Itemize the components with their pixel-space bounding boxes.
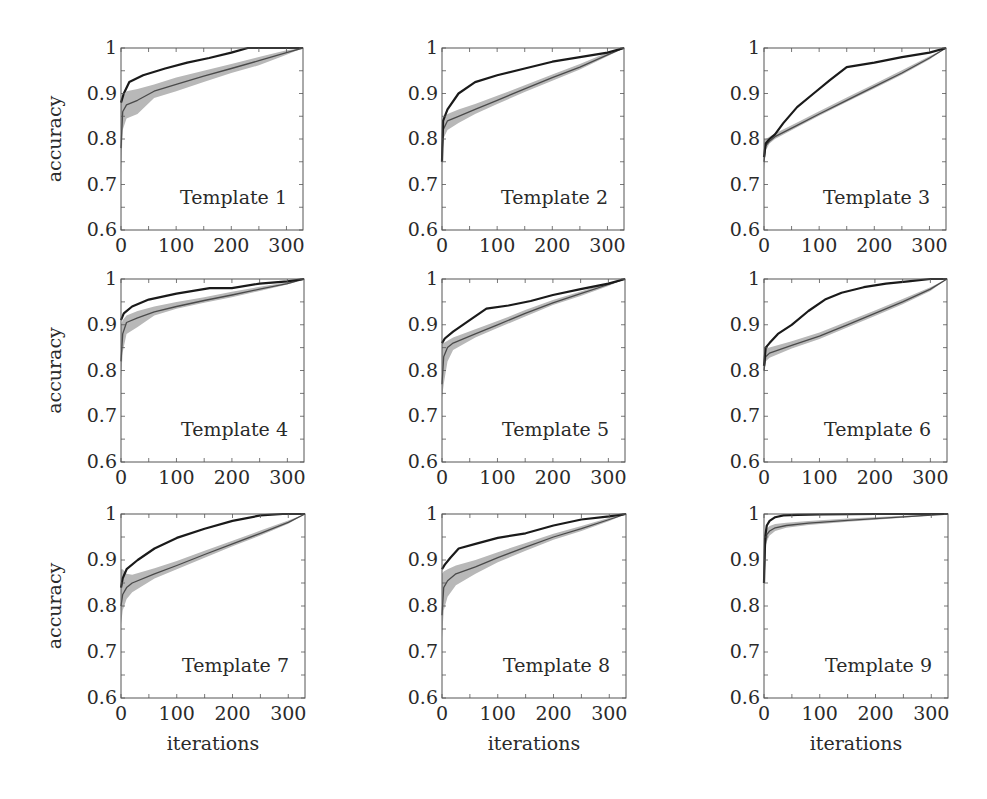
confidence-band [442, 514, 626, 638]
y-tick-label: 0.9 [87, 548, 117, 570]
x-tick-label: 200 [214, 702, 250, 724]
x-axis-label: iterations [810, 732, 903, 754]
y-tick-label: 0.9 [87, 82, 117, 104]
confidence-band [121, 279, 304, 380]
y-axis-label: accuracy [43, 327, 65, 414]
subplot-template-2: 01002003000.60.70.80.91Template 2 [408, 36, 626, 256]
x-tick-label: 100 [801, 234, 837, 256]
y-tick-label: 0.8 [408, 359, 438, 381]
template-label: Template 7 [182, 654, 289, 676]
y-tick-label: 1 [748, 36, 760, 58]
x-tick-label: 200 [214, 466, 250, 488]
y-tick-label: 0.7 [408, 173, 438, 195]
x-axis-label: iterations [167, 732, 260, 754]
x-tick-label: 200 [535, 466, 571, 488]
template-label: Template 3 [823, 186, 930, 208]
x-tick-label: 200 [213, 234, 249, 256]
y-tick-label: 0.7 [87, 640, 117, 662]
template-label: Template 2 [501, 186, 608, 208]
y-tick-label: 1 [748, 267, 760, 289]
x-tick-label: 100 [480, 702, 516, 724]
confidence-band [442, 279, 625, 398]
x-tick-label: 200 [857, 466, 893, 488]
y-tick-label: 0.8 [408, 127, 438, 149]
template-label: Template 5 [502, 418, 609, 440]
x-tick-label: 300 [589, 234, 625, 256]
chart-canvas: 01002003000.60.70.80.91Template 1accurac… [0, 0, 987, 799]
x-tick-label: 100 [159, 702, 195, 724]
y-tick-label: 0.6 [730, 686, 760, 708]
y-axis-label: accuracy [43, 562, 65, 649]
y-tick-label: 0.6 [408, 450, 438, 472]
y-tick-label: 0.8 [730, 359, 760, 381]
y-tick-label: 0.9 [408, 548, 438, 570]
mean-accuracy-line [764, 514, 948, 583]
y-tick-label: 0.9 [408, 313, 438, 335]
x-tick-label: 100 [802, 702, 838, 724]
x-tick-label: 200 [856, 234, 892, 256]
x-tick-label: 100 [479, 234, 515, 256]
x-tick-label: 300 [270, 702, 306, 724]
figure-grid: 01002003000.60.70.80.91Template 1accurac… [0, 0, 987, 799]
y-tick-label: 0.8 [87, 359, 117, 381]
x-tick-label: 100 [801, 466, 837, 488]
subplot-template-4: 01002003000.60.70.80.91Template 4accurac… [43, 267, 305, 488]
mean-accuracy-line [442, 48, 624, 157]
subplot-template-8: 01002003000.60.70.80.91Template 8iterati… [408, 502, 628, 754]
x-tick-label: 300 [913, 702, 949, 724]
y-tick-label: 1 [105, 502, 117, 524]
x-tick-label: 100 [158, 466, 194, 488]
y-tick-label: 0.7 [730, 640, 760, 662]
x-tick-label: 300 [268, 234, 304, 256]
template-label: Template 4 [181, 418, 288, 440]
y-tick-label: 0.8 [730, 127, 760, 149]
y-tick-label: 0.8 [730, 594, 760, 616]
y-tick-label: 0.8 [408, 594, 438, 616]
y-tick-label: 0.6 [408, 218, 438, 240]
y-tick-label: 1 [748, 502, 760, 524]
y-tick-label: 0.6 [87, 686, 117, 708]
subplot-template-3: 01002003000.60.70.80.91Template 3 [730, 36, 948, 256]
mean-accuracy-line [121, 279, 304, 361]
y-tick-label: 1 [426, 502, 438, 524]
y-tick-label: 0.9 [730, 313, 760, 335]
x-tick-label: 300 [590, 466, 626, 488]
y-tick-label: 1 [426, 267, 438, 289]
subplot-template-6: 01002003000.60.70.80.91Template 6 [730, 267, 949, 488]
x-tick-label: 300 [911, 234, 947, 256]
y-tick-label: 0.7 [87, 404, 117, 426]
y-tick-label: 1 [426, 36, 438, 58]
template-label: Template 8 [503, 654, 610, 676]
y-tick-label: 1 [105, 267, 117, 289]
best-accuracy-line [442, 48, 624, 162]
y-tick-label: 0.6 [87, 450, 117, 472]
subplot-template-1: 01002003000.60.70.80.91Template 1accurac… [43, 36, 305, 256]
subplot-template-9: 01002003000.60.70.80.91Template 9iterati… [730, 502, 950, 754]
y-tick-label: 0.6 [730, 218, 760, 240]
y-tick-label: 0.6 [408, 686, 438, 708]
x-tick-label: 100 [479, 466, 515, 488]
subplot-template-5: 01002003000.60.70.80.91Template 5 [408, 267, 627, 488]
confidence-band [121, 514, 305, 624]
x-tick-label: 200 [857, 702, 893, 724]
y-tick-label: 0.7 [730, 173, 760, 195]
confidence-band [121, 48, 303, 175]
x-tick-label: 300 [269, 466, 305, 488]
x-tick-label: 200 [534, 234, 570, 256]
x-tick-label: 300 [912, 466, 948, 488]
y-tick-label: 0.9 [730, 548, 760, 570]
x-tick-label: 200 [535, 702, 571, 724]
template-label: Template 9 [825, 654, 932, 676]
subplot-template-7: 01002003000.60.70.80.91Template 7accurac… [43, 502, 306, 754]
y-tick-label: 0.8 [87, 594, 117, 616]
y-tick-label: 0.9 [87, 313, 117, 335]
y-axis-label: accuracy [43, 95, 65, 182]
y-tick-label: 0.9 [408, 82, 438, 104]
y-tick-label: 0.7 [408, 640, 438, 662]
y-tick-label: 0.9 [730, 82, 760, 104]
y-tick-label: 1 [105, 36, 117, 58]
template-label: Template 6 [824, 418, 931, 440]
x-axis-label: iterations [488, 732, 581, 754]
y-tick-label: 0.7 [408, 404, 438, 426]
y-tick-label: 0.6 [87, 218, 117, 240]
